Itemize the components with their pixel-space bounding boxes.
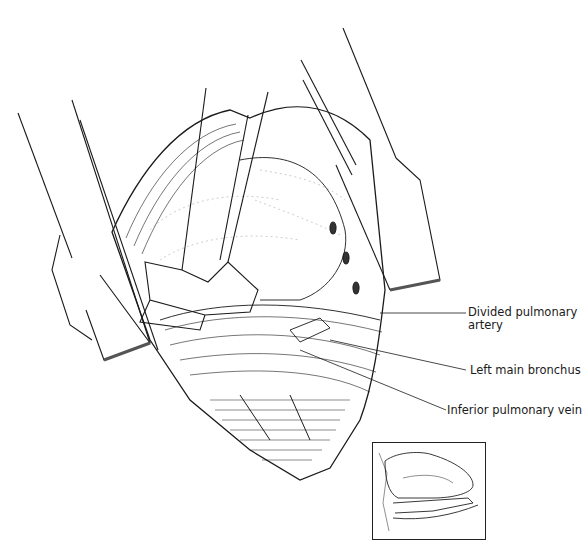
label-inferior-pulmonary-vein: Inferior pulmonary vein (447, 404, 582, 417)
inset-lung-sketch (373, 443, 485, 539)
label-line-2: artery (468, 319, 577, 332)
middle-retractor (140, 88, 268, 330)
leader-lines (300, 313, 466, 410)
label-divided-pulmonary-artery: Divided pulmonary artery (468, 306, 577, 332)
thoracic-cavity (112, 107, 385, 480)
orientation-inset (372, 442, 486, 540)
label-left-main-bronchus: Left main bronchus (470, 364, 581, 377)
left-retractor (18, 100, 158, 360)
surgical-illustration (0, 0, 588, 560)
right-retractor (301, 28, 440, 294)
